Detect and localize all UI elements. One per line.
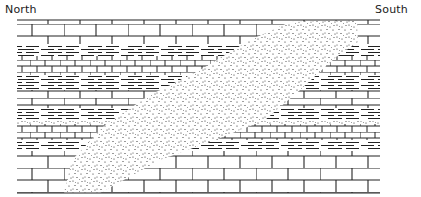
strata [17,20,380,193]
cross-section-diagram [0,0,421,197]
